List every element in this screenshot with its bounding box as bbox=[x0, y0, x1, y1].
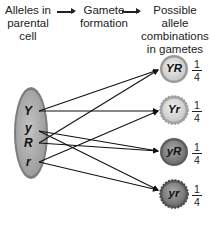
fraction-YR: 1 4 bbox=[192, 59, 202, 82]
fraction-numerator: 1 bbox=[192, 184, 202, 196]
gamete-label-Yr: Yr bbox=[160, 103, 188, 115]
allele-Y: Y bbox=[24, 104, 32, 118]
fraction-denominator: 4 bbox=[192, 154, 202, 165]
fraction-denominator: 4 bbox=[192, 196, 202, 207]
connection-lines bbox=[39, 70, 158, 190]
fraction-numerator: 1 bbox=[192, 100, 202, 112]
gamete-label-yr: yr bbox=[160, 187, 188, 199]
fraction-numerator: 1 bbox=[192, 142, 202, 154]
meiosis-gamete-diagram: Alleles in parental cell Gamete formatio… bbox=[0, 0, 211, 229]
allele-r: r bbox=[26, 155, 31, 169]
fraction-yR: 1 4 bbox=[192, 142, 202, 165]
fraction-numerator: 1 bbox=[192, 59, 202, 71]
fraction-denominator: 4 bbox=[192, 112, 202, 123]
gamete-label-YR: YR bbox=[160, 62, 188, 74]
fraction-yr: 1 4 bbox=[192, 184, 202, 207]
fraction-denominator: 4 bbox=[192, 71, 202, 82]
allele-R: R bbox=[24, 136, 33, 150]
fraction-Yr: 1 4 bbox=[192, 100, 202, 123]
gamete-label-yR: yR bbox=[160, 145, 188, 157]
allele-y: y bbox=[25, 121, 32, 135]
